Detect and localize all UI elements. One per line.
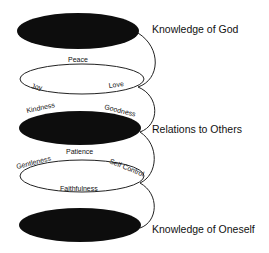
- fruit-love: Love: [108, 80, 124, 89]
- label-knowledge-of-oneself: Knowledge of Oneself: [152, 223, 255, 235]
- fruit-faithfulness: Faithfulness: [60, 185, 98, 192]
- fruit-peace: Peace: [68, 56, 88, 63]
- label-relations-to-others: Relations to Others: [152, 123, 242, 135]
- ellipse-knowledge-of-oneself: [19, 208, 141, 242]
- fruit-kindness: Kindness: [26, 101, 56, 114]
- fruit-joy: Joy: [31, 82, 44, 92]
- label-knowledge-of-god: Knowledge of God: [152, 23, 239, 35]
- ellipse-knowledge-of-god: [17, 13, 139, 49]
- fruit-gentleness: Gentleness: [16, 154, 53, 169]
- connector-ring2-to-bottom: [140, 183, 154, 228]
- fruit-patience: Patience: [66, 148, 93, 155]
- connector-top-to-ring1: [138, 33, 155, 87]
- ellipse-relations-to-others: [19, 111, 141, 145]
- fruit-self-control: Self Control: [109, 157, 146, 177]
- fruit-of-spirit-diagram: Knowledge of God Relations to Others Kno…: [0, 0, 269, 253]
